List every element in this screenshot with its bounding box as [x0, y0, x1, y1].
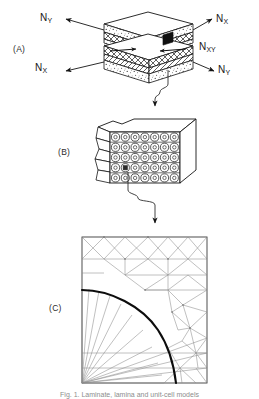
arrow-ny-top-left: [66, 19, 104, 30]
force-label-ny-top-left: NY: [40, 12, 52, 24]
force-subscript: Y: [47, 17, 52, 24]
force-subscript: X: [42, 67, 47, 74]
force-subscript: XY: [206, 46, 215, 53]
lamina-torn-left-edge: [95, 127, 110, 183]
force-subscript: X: [223, 18, 228, 25]
arrow-nx-bottom-left: [66, 62, 104, 71]
force-label-nx-bottom-left: NX: [35, 62, 47, 74]
force-label-ny-bottom-right: NY: [218, 64, 230, 76]
lamina-top-face: [98, 119, 196, 132]
panel-a-laminate: [66, 12, 214, 106]
highlighted-fiber: [121, 164, 129, 172]
figure-caption: Fig. 1. Laminate, lamina and unit-cell m…: [0, 390, 259, 399]
force-label-nx-top-right: NX: [216, 13, 228, 25]
panel-label-c: (C): [49, 303, 62, 313]
panel-label-b: (B): [58, 147, 70, 157]
panel-b-lamina: [95, 119, 196, 223]
panel-c-unit-cell-mesh: [82, 236, 207, 383]
composite-multiscale-figure: [0, 0, 259, 399]
force-label-nxy: NXY: [199, 41, 216, 53]
force-subscript: Y: [225, 69, 230, 76]
arrow-nx-top-right: [193, 19, 212, 30]
arrow-ny-bottom-right: [193, 62, 214, 71]
panel-label-a: (A): [13, 44, 25, 54]
